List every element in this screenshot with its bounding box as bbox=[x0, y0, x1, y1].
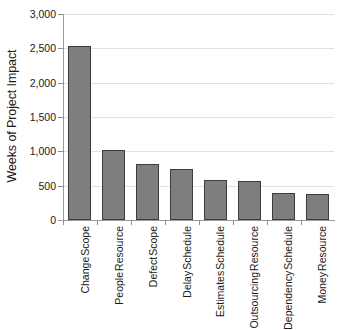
x-axis-category-label: ResourceOutsourcing bbox=[232, 226, 266, 314]
bar bbox=[170, 169, 193, 220]
x-axis-tick-mark bbox=[233, 221, 234, 225]
x-axis-tick-mark bbox=[301, 221, 302, 225]
x-axis-label-line: Scope bbox=[80, 226, 92, 256]
bar bbox=[136, 164, 159, 220]
x-axis-category-label: ScheduleDelay bbox=[165, 226, 199, 314]
x-axis-label-line: Scope bbox=[148, 226, 160, 256]
x-axis-tick-mark bbox=[165, 221, 166, 225]
y-axis-title: Weeks of Project Impact bbox=[0, 0, 24, 232]
x-axis-label-line: People bbox=[114, 272, 126, 305]
x-axis-label-line: Schedule bbox=[182, 226, 194, 270]
y-axis-tick-label: 0 bbox=[22, 214, 56, 226]
y-axis-tick-label: 2,000 bbox=[22, 77, 56, 89]
x-axis-tick-marks bbox=[63, 221, 334, 225]
x-axis-label-line: Resource bbox=[317, 226, 329, 271]
bars-layer bbox=[63, 14, 334, 220]
x-axis-label-line: Defect bbox=[148, 257, 160, 287]
y-axis-tick-label: 1,500 bbox=[22, 111, 56, 123]
bar bbox=[238, 181, 261, 220]
x-axis-tick-mark bbox=[131, 221, 132, 225]
x-axis-category-label: ScopeDefect bbox=[131, 226, 165, 314]
x-axis-label-line: Schedule bbox=[283, 226, 295, 270]
x-axis-category-label: ResourcePeople bbox=[97, 226, 131, 314]
x-axis-label-line: Dependency bbox=[283, 271, 295, 330]
x-axis-tick-mark bbox=[199, 221, 200, 225]
x-axis-label-line: Outsourcing bbox=[249, 272, 261, 329]
x-axis-label-line: Resource bbox=[114, 226, 126, 271]
x-axis-label-line: Schedule bbox=[215, 226, 227, 270]
y-axis-title-text: Weeks of Project Impact bbox=[5, 50, 19, 183]
x-axis-tick-mark bbox=[97, 221, 98, 225]
y-axis-tick-label: 3,000 bbox=[22, 8, 56, 20]
x-axis-tick-mark bbox=[63, 221, 64, 225]
bar bbox=[272, 193, 295, 220]
y-axis-tick-label: 500 bbox=[22, 180, 56, 192]
x-axis-category-label: ResourceMoney bbox=[300, 226, 334, 314]
x-axis-category-labels: ScopeChangeResourcePeopleScopeDefectSche… bbox=[63, 226, 334, 315]
bar bbox=[102, 150, 125, 220]
bar bbox=[68, 46, 91, 220]
x-axis-label-line: Delay bbox=[182, 271, 194, 298]
y-axis-line bbox=[63, 14, 64, 221]
x-axis-category-label: ScopeChange bbox=[63, 226, 97, 314]
x-axis-category-label: ScheduleEstimates bbox=[198, 226, 232, 314]
bar bbox=[306, 194, 329, 220]
x-axis-tick-mark bbox=[267, 221, 268, 225]
plot-area bbox=[63, 14, 334, 220]
y-axis-tick-labels: 05001,0001,5002,0002,5003,000 bbox=[22, 14, 56, 220]
x-axis-label-line: Resource bbox=[249, 226, 261, 271]
x-axis-label-line: Change bbox=[80, 257, 92, 294]
x-axis-label-line: Estimates bbox=[215, 271, 227, 317]
x-axis-label-line: Money bbox=[317, 272, 329, 304]
x-axis-category-label: ScheduleDependency bbox=[266, 226, 300, 314]
y-axis-tick-label: 1,000 bbox=[22, 145, 56, 157]
bar bbox=[204, 180, 227, 220]
y-axis-tick-label: 2,500 bbox=[22, 42, 56, 54]
